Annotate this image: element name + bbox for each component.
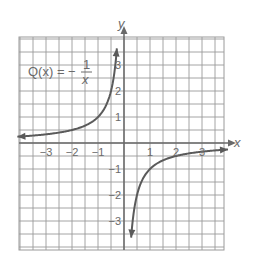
function-lhs: Q(x) = − <box>28 64 76 79</box>
function-denominator: x <box>81 72 89 87</box>
x-axis-label: x <box>233 135 241 150</box>
function-graph: −3−2−1123321−1−2−3 y x Q(x) = − 1 x <box>0 0 259 258</box>
y-tick-label: 3 <box>115 59 121 71</box>
x-tick-label: 3 <box>199 146 205 158</box>
function-curve <box>17 48 116 136</box>
y-tick-label: 1 <box>115 111 121 123</box>
y-tick-label: −3 <box>108 215 121 227</box>
y-tick-label: −1 <box>108 163 121 175</box>
x-tick-label: −2 <box>66 146 79 158</box>
function-numerator: 1 <box>83 57 90 72</box>
y-tick-label: 2 <box>115 85 121 97</box>
function-label: Q(x) = − 1 x <box>28 57 92 87</box>
x-tick-label: −3 <box>40 146 53 158</box>
x-tick-label: 2 <box>173 146 179 158</box>
function-curve <box>131 150 228 238</box>
axes <box>19 26 236 250</box>
x-tick-label: 1 <box>147 146 153 158</box>
y-tick-label: −2 <box>108 189 121 201</box>
x-tick-label: −1 <box>92 146 105 158</box>
